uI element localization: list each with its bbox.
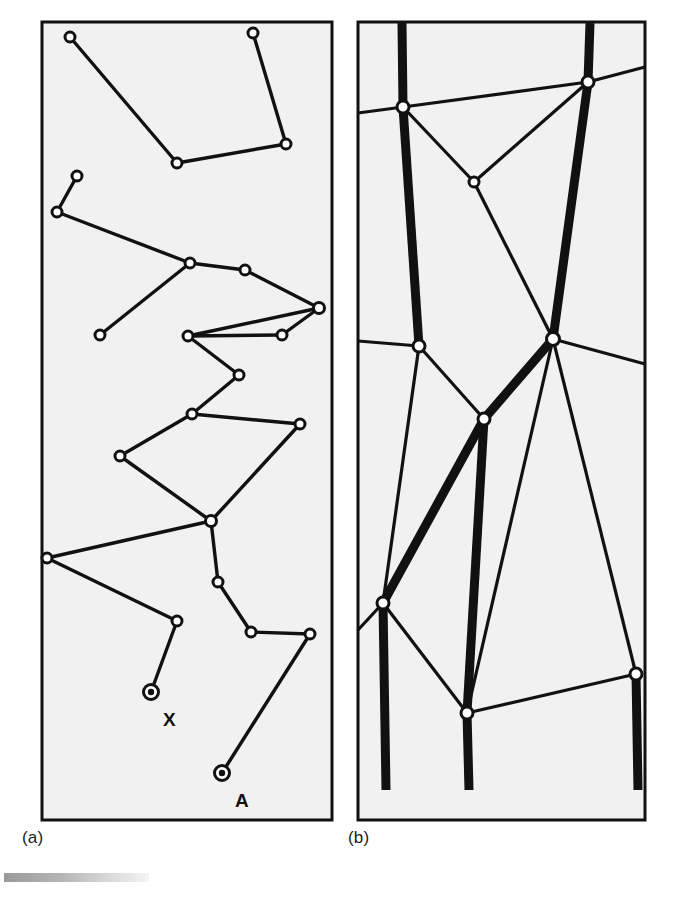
node bbox=[52, 207, 62, 217]
node bbox=[172, 158, 182, 168]
node bbox=[206, 516, 217, 527]
thick-edge bbox=[636, 674, 638, 790]
terminal-inner-dot bbox=[219, 770, 225, 776]
node bbox=[183, 331, 193, 341]
edge bbox=[188, 335, 282, 336]
node bbox=[461, 707, 473, 719]
node bbox=[630, 668, 642, 680]
node bbox=[397, 101, 409, 113]
node bbox=[172, 616, 182, 626]
node bbox=[305, 629, 315, 639]
node bbox=[42, 553, 52, 563]
node bbox=[115, 451, 125, 461]
node bbox=[277, 330, 287, 340]
figure-root: X A bbox=[0, 0, 685, 905]
thick-edge bbox=[467, 713, 469, 790]
node bbox=[65, 32, 75, 42]
node bbox=[295, 419, 305, 429]
thick-edge bbox=[383, 603, 386, 790]
node bbox=[234, 370, 244, 380]
terminal-node-x bbox=[144, 685, 159, 700]
decorative-rule-bar bbox=[4, 873, 149, 882]
figure-canvas: X A bbox=[0, 0, 685, 905]
node bbox=[469, 177, 479, 187]
terminal-inner-dot bbox=[148, 689, 154, 695]
node bbox=[377, 597, 389, 609]
node bbox=[95, 330, 105, 340]
thick-edge bbox=[588, 23, 590, 82]
node bbox=[547, 333, 560, 346]
terminal-label-a: A bbox=[235, 790, 249, 811]
node bbox=[213, 577, 223, 587]
node bbox=[478, 413, 490, 425]
panel-b-caption: (b) bbox=[348, 828, 369, 848]
node bbox=[187, 409, 197, 419]
panel-b bbox=[358, 22, 645, 820]
node bbox=[185, 258, 195, 268]
panel-a: X A bbox=[42, 22, 332, 820]
node bbox=[248, 28, 258, 38]
thick-edge bbox=[402, 23, 403, 107]
node bbox=[413, 340, 425, 352]
panel-a-caption: (a) bbox=[22, 828, 43, 848]
node bbox=[240, 265, 250, 275]
node bbox=[246, 627, 256, 637]
terminal-label-x: X bbox=[163, 709, 176, 730]
node bbox=[281, 139, 291, 149]
terminal-node-a bbox=[215, 766, 230, 781]
node bbox=[314, 303, 325, 314]
node bbox=[72, 171, 82, 181]
edge bbox=[251, 632, 310, 634]
node bbox=[582, 76, 594, 88]
